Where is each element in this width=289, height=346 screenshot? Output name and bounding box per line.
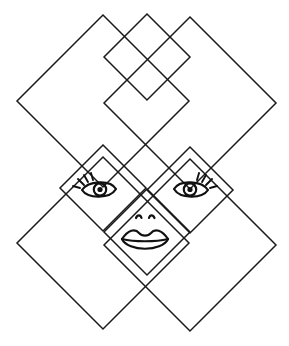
canvas-background	[0, 0, 289, 346]
right-eye-pupil	[187, 187, 192, 192]
diamond-face-drawing	[0, 0, 289, 346]
artboard	[0, 0, 289, 346]
left-eye-pupil	[97, 187, 102, 192]
